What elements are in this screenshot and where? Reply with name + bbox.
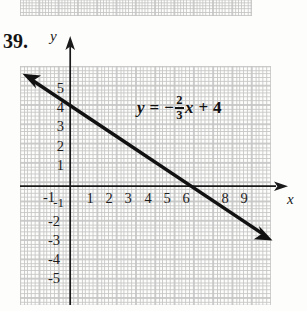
equation-lhs: y	[137, 98, 145, 118]
y-tick-label-4: 4	[44, 99, 64, 116]
y-axis-label: y	[50, 28, 57, 45]
x-tick-label-2: 2	[101, 190, 117, 207]
equation-fraction: 2 3	[175, 94, 184, 122]
y-tick-label-neg4: -4	[40, 251, 60, 268]
equation-variable: x	[185, 98, 194, 118]
y-tick-label-2: 2	[44, 138, 64, 155]
x-tick-label-1: 1	[82, 190, 98, 207]
equation-annotation: y = − 2 3 x + 4	[137, 94, 222, 122]
x-tick-label-4: 4	[140, 190, 156, 207]
x-tick-label-5: 5	[159, 190, 175, 207]
figure-page: 5 39. y x -1	[0, 0, 307, 311]
x-tick-label-3: 3	[120, 190, 136, 207]
equation-minus-sign: −	[164, 98, 174, 118]
fraction-denominator: 3	[175, 109, 183, 122]
x-tick-label-9: 9	[236, 190, 252, 207]
y-tick-label-5: 5	[44, 80, 64, 97]
y-tick-label-neg3: -3	[40, 232, 60, 249]
equation-plus-sign: +	[198, 98, 208, 118]
y-tick-label-neg2: -2	[40, 213, 60, 230]
equation-equals: =	[150, 98, 160, 118]
y-tick-label-neg5: -5	[40, 270, 60, 287]
y-tick-label-3: 3	[44, 118, 64, 135]
equation-constant: 4	[213, 98, 222, 118]
fraction-numerator: 2	[175, 94, 183, 107]
y-axis	[65, 36, 75, 305]
y-tick-label-neg1: -1	[44, 195, 64, 211]
x-axis-label: x	[287, 191, 294, 208]
y-tick-label-1: 1	[44, 157, 64, 174]
x-tick-label-6: 6	[178, 190, 194, 207]
coordinate-plot: y x -1 1 2 3 4 5 6 8 9 5 4 3 2 1 -1 -2 -…	[0, 0, 307, 311]
x-tick-label-8: 8	[217, 190, 233, 207]
